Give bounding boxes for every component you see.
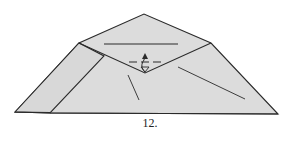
step-number-label: 12. (0, 116, 296, 131)
paper-shape (15, 14, 278, 114)
bottom-edge-left (15, 112, 50, 113)
